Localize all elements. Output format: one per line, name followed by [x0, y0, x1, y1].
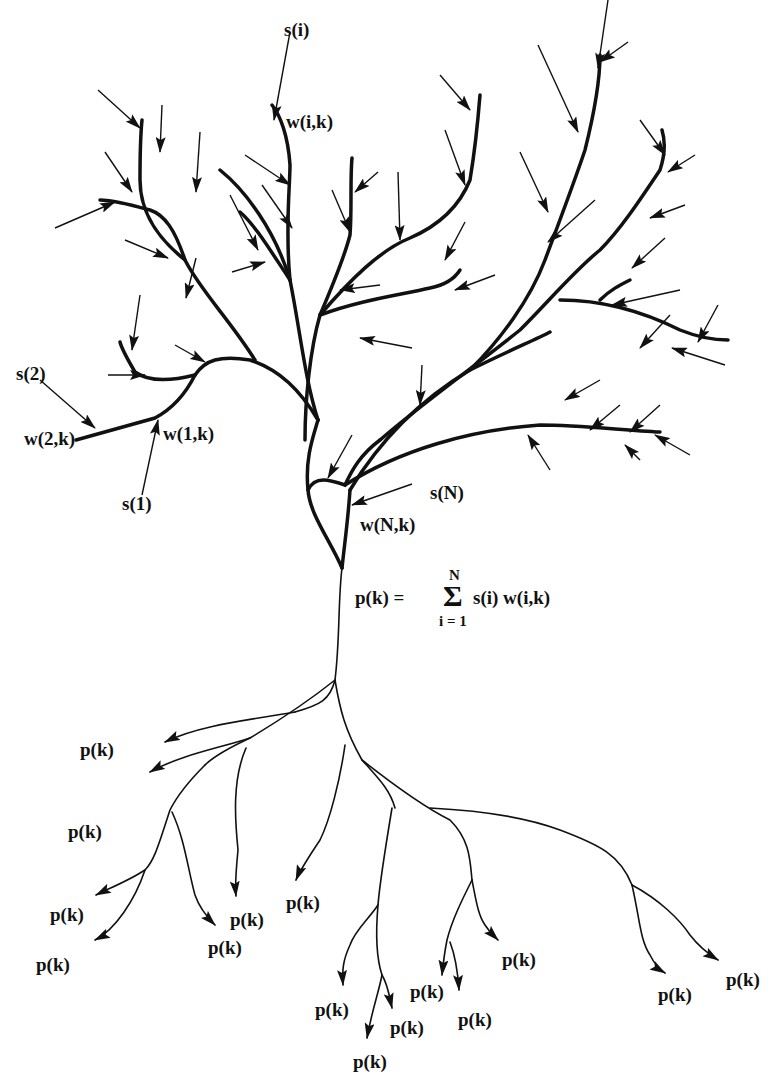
input-label-s-2: s(2): [16, 364, 46, 383]
tree-drawing: [0, 0, 782, 1086]
weight-label-w-2-k: w(2,k): [24, 429, 75, 448]
output-label-p-k: p(k): [353, 1052, 387, 1071]
output-label-p-k: p(k): [658, 985, 692, 1004]
output-label-p-k: p(k): [502, 950, 536, 969]
output-label-p-k: p(k): [68, 822, 102, 841]
weight-label-w-i-k: w(i,k): [286, 112, 333, 131]
output-label-p-k: p(k): [286, 893, 320, 912]
weight-label-w-1-k: w(1,k): [163, 424, 214, 443]
formula-lhs: p(k) =: [355, 587, 404, 609]
formula-lower-limit: i = 1: [439, 613, 467, 630]
output-label-p-k: p(k): [390, 1018, 424, 1037]
dendrite-branches: [76, 55, 728, 568]
neuron-tree-diagram: s(i) w(i,k) s(2) w(2,k) w(1,k) s(1) s(N)…: [0, 0, 782, 1086]
output-label-p-k: p(k): [315, 1000, 349, 1019]
output-label-p-k: p(k): [50, 905, 84, 924]
weight-label-w-n-k: w(N,k): [360, 515, 415, 534]
input-label-s-i: s(i): [284, 20, 309, 39]
output-label-p-k: p(k): [458, 1010, 492, 1029]
output-label-p-k: p(k): [80, 740, 114, 759]
formula-rhs: s(i) w(i,k): [473, 587, 550, 609]
output-label-p-k: p(k): [208, 938, 242, 957]
output-label-p-k: p(k): [230, 910, 264, 929]
output-label-p-k: p(k): [726, 970, 760, 989]
formula-sigma: Σ: [443, 579, 463, 613]
input-label-s-n: s(N): [430, 483, 464, 502]
output-label-p-k: p(k): [36, 955, 70, 974]
input-label-s-1: s(1): [122, 494, 152, 513]
output-label-p-k: p(k): [410, 982, 444, 1001]
axon-roots: [95, 568, 718, 1038]
